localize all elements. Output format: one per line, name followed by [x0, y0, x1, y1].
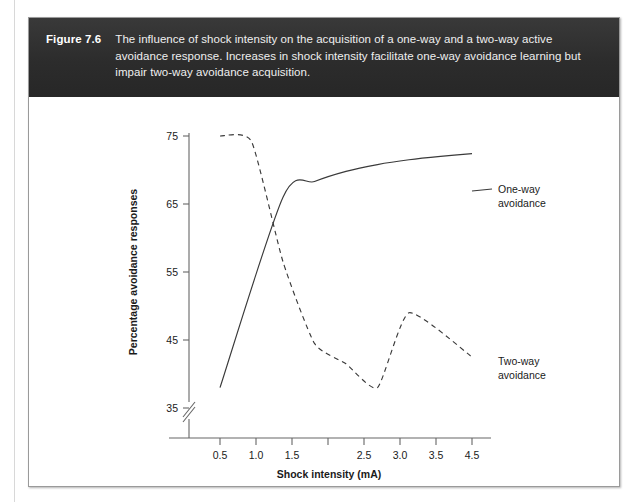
figure-caption-band: Figure 7.6 The influence of shock intens…	[29, 18, 619, 97]
y-axis-ticks	[183, 136, 189, 408]
x-axis-tick-labels: 0.5 1.0 1.5 2.5 3.0 3.5 4.5	[213, 449, 480, 461]
y-axis-tick-labels: 75 65 55 45 35	[166, 130, 178, 414]
y-tick-label: 55	[166, 266, 178, 278]
series-label-line1: One-way	[498, 183, 541, 195]
x-tick-label: 2.5	[357, 449, 372, 461]
x-tick-label: 3.5	[429, 449, 444, 461]
y-axis-title: Percentage avoidance responses	[127, 189, 139, 355]
page-edge-rule	[14, 0, 15, 502]
figure-caption-text: The influence of shock intensity on the …	[115, 31, 585, 81]
series-line-two-way	[220, 135, 472, 389]
series-label-two-way: Two-way avoidance	[498, 355, 546, 381]
x-tick-label: 4.5	[465, 449, 480, 461]
y-tick-label: 45	[166, 334, 178, 346]
figure-card: Figure 7.6 The influence of shock intens…	[28, 17, 620, 487]
y-tick-label: 75	[166, 130, 178, 142]
x-axis-ticks	[220, 438, 472, 445]
x-tick-label: 3.0	[393, 449, 408, 461]
series-label-line1: Two-way	[498, 355, 540, 367]
x-tick-label: 1.5	[285, 449, 300, 461]
series-label-line2: avoidance	[498, 197, 546, 209]
one-way-leader-line	[472, 189, 492, 191]
x-axis-title: Shock intensity (mA)	[277, 468, 381, 480]
figure-number-label: Figure 7.6	[46, 31, 101, 81]
figure-root: Figure 7.6 The influence of shock intens…	[0, 0, 639, 502]
y-tick-label: 65	[166, 198, 178, 210]
series-label-one-way: One-way avoidance	[498, 183, 546, 209]
x-tick-label: 0.5	[213, 449, 228, 461]
series-label-line2: avoidance	[498, 369, 546, 381]
line-chart-svg: 75 65 55 45 35 0	[29, 97, 619, 486]
chart-plot-area: 75 65 55 45 35 0	[29, 97, 619, 486]
x-tick-label: 1.0	[249, 449, 264, 461]
series-line-one-way	[220, 154, 472, 388]
y-tick-label: 35	[166, 402, 178, 414]
